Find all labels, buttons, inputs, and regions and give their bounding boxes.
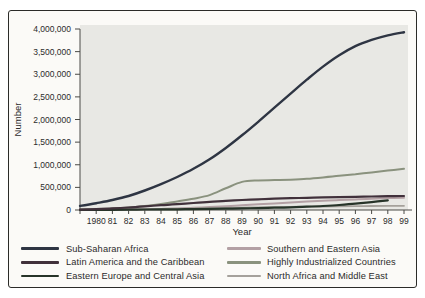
legend-column-left: Sub-Saharan Africa Latin America and the… [21,242,227,283]
legend-item: North Africa and Middle East [227,269,412,283]
legend-swatch [21,247,59,250]
y-tick-label: 2,000,000 [33,115,71,125]
legend-label: Southern and Eastern Asia [267,244,380,254]
x-tick-label: 92 [286,216,296,226]
y-axis-title: Number [12,103,23,137]
x-tick-label: 97 [367,216,377,226]
legend-swatch [21,261,59,264]
x-tick-label: 90 [253,216,263,226]
x-tick-label: 89 [237,216,247,226]
x-tick-label: 94 [318,216,328,226]
legend-item: Eastern Europe and Central Asia [21,269,227,283]
y-tick-label: 4,000,000 [33,24,71,34]
x-tick-label: 96 [351,216,361,226]
y-tick-label: 1,500,000 [33,137,71,147]
y-tick-label: 0 [66,205,71,215]
y-tick-label: 2,500,000 [33,92,71,102]
x-tick-label: 91 [270,216,280,226]
x-tick-label: 84 [156,216,166,226]
legend-label: Highly Industrialized Countries [267,257,396,267]
legend-label: Sub-Saharan Africa [66,244,148,254]
x-tick-label: 81 [108,216,118,226]
legend-item: Sub-Saharan Africa [21,242,227,256]
y-tick-label: 3,000,000 [33,69,71,79]
x-tick-label: 98 [383,216,393,226]
legend-swatch [227,275,261,278]
y-tick-label: 500,000 [40,182,71,192]
legend-swatch [227,261,261,264]
x-tick-label: 82 [124,216,134,226]
x-tick-label: 1980 [87,216,106,226]
legend-label: Latin America and the Caribbean [66,257,205,267]
x-axis-title: Year [232,226,251,237]
x-tick-label: 86 [189,216,199,226]
x-tick-label: 88 [221,216,231,226]
chart-legend: Sub-Saharan Africa Latin America and the… [21,242,412,283]
legend-swatch [227,247,261,250]
legend-label: North Africa and Middle East [267,271,388,281]
legend-item: Highly Industrialized Countries [227,256,412,270]
figure-frame: 0500,0001,000,0001,500,0002,000,0002,500… [8,10,417,288]
y-tick-label: 3,500,000 [33,47,71,57]
legend-column-right: Southern and Eastern Asia Highly Industr… [227,242,412,283]
y-tick-label: 1,000,000 [33,160,71,170]
x-tick-label: 95 [334,216,344,226]
x-tick-label: 85 [172,216,182,226]
legend-item: Latin America and the Caribbean [21,256,227,270]
x-tick-label: 99 [399,216,409,226]
x-tick-label: 87 [205,216,215,226]
legend-item: Southern and Eastern Asia [227,242,412,256]
x-tick-label: 93 [302,216,312,226]
legend-swatch [21,275,59,278]
legend-label: Eastern Europe and Central Asia [66,271,205,281]
x-tick-label: 83 [140,216,150,226]
